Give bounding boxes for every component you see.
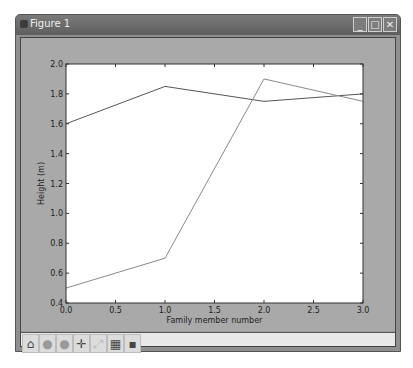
forward-arrow-icon: ● xyxy=(59,337,69,351)
minimize-button[interactable]: _ xyxy=(353,17,367,32)
y-tick-label: 0.4 xyxy=(50,299,63,308)
x-tick-label: 1.5 xyxy=(208,306,221,315)
y-tick-label: 1.6 xyxy=(50,120,63,129)
y-tick-label: 2.0 xyxy=(50,60,63,69)
y-tick-label: 1.0 xyxy=(50,209,63,218)
save-button[interactable]: ▪ xyxy=(124,334,141,353)
zoom-rect-icon: ⤢ xyxy=(94,337,104,351)
y-tick-label: 1.8 xyxy=(50,90,63,99)
save-icon: ▪ xyxy=(128,337,136,351)
y-axis-label: Height (m) xyxy=(37,162,46,205)
navigation-toolbar: ⌂ ● ● ✛ ⤢ ▦ ▪ xyxy=(21,332,395,346)
x-tick-label: 2.0 xyxy=(258,306,271,315)
home-button[interactable]: ⌂ xyxy=(22,334,39,353)
home-icon: ⌂ xyxy=(27,337,35,351)
close-button[interactable]: ✕ xyxy=(383,17,397,32)
figure-window: Figure 1 _ □ ✕ 0.00.51.01.52.02.53.00.40… xyxy=(15,14,401,352)
maximize-button[interactable]: □ xyxy=(368,17,382,32)
window-title: Figure 1 xyxy=(30,18,70,29)
figure-canvas[interactable]: 0.00.51.01.52.02.53.00.40.60.81.01.21.41… xyxy=(21,38,395,331)
x-tick-label: 3.0 xyxy=(357,306,370,315)
back-arrow-icon: ● xyxy=(42,337,52,351)
title-bar[interactable]: Figure 1 _ □ ✕ xyxy=(16,15,400,35)
y-tick-label: 1.2 xyxy=(50,180,63,189)
app-icon xyxy=(20,20,28,28)
y-tick-label: 1.4 xyxy=(50,150,63,159)
pan-button[interactable]: ✛ xyxy=(73,334,90,353)
subplots-button[interactable]: ▦ xyxy=(107,334,124,353)
zoom-button[interactable]: ⤢ xyxy=(90,334,107,353)
x-tick-label: 1.0 xyxy=(159,306,172,315)
x-tick-label: 2.5 xyxy=(307,306,320,315)
line-chart: 0.00.51.01.52.02.53.00.40.60.81.01.21.41… xyxy=(21,38,397,331)
subplots-icon: ▦ xyxy=(110,337,121,351)
pan-icon: ✛ xyxy=(76,337,86,351)
y-tick-label: 0.8 xyxy=(50,239,63,248)
window-client: 0.00.51.01.52.02.53.00.40.60.81.01.21.41… xyxy=(20,37,396,347)
y-tick-label: 0.6 xyxy=(50,269,63,278)
forward-button[interactable]: ● xyxy=(56,334,73,353)
x-tick-label: 0.5 xyxy=(109,306,122,315)
plot-area xyxy=(66,64,363,303)
x-axis-label: Family member number xyxy=(167,316,264,325)
back-button[interactable]: ● xyxy=(39,334,56,353)
